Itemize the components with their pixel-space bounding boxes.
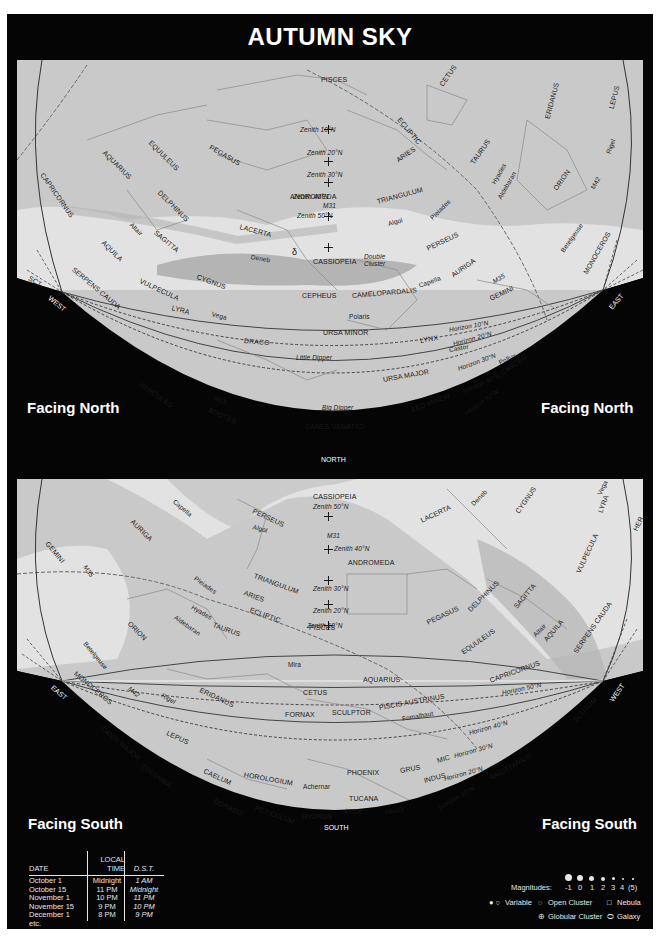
page-title: AUTUMN SKY xyxy=(7,14,653,60)
label-m31: M31 xyxy=(323,202,336,209)
label-big-dipper: Big Dipper xyxy=(322,404,353,411)
magnitude-value: -1 xyxy=(565,883,572,892)
zenith-20-s: Zenith 20°N xyxy=(313,607,349,614)
label-fornax: FORNAX xyxy=(285,711,315,718)
label-achernar: Achernar xyxy=(303,783,330,790)
label-cepheus: CEPHEUS xyxy=(302,292,337,299)
label-aquarius-s: AQUARIUS xyxy=(363,676,400,683)
open-cluster-label: Open Cluster xyxy=(548,898,592,907)
zenith-50-s: Zenith 50°N xyxy=(313,503,349,510)
facing-south-left: Facing South xyxy=(28,815,123,832)
zenith-30-s: Zenith 30°N xyxy=(313,585,349,592)
nebula-label: Nebula xyxy=(617,898,641,907)
globular-cluster-label: Globular Cluster xyxy=(548,912,602,921)
table-header-time: TIME xyxy=(107,864,125,873)
direction-north: NORTH xyxy=(321,456,346,463)
label-cassiopeia: CASSIOPEIA xyxy=(313,258,356,265)
label-tucana: TUCANA xyxy=(349,795,378,802)
galaxy-label: Galaxy xyxy=(617,912,640,921)
star-chart-page: AUTUMN SKY xyxy=(7,14,653,929)
label-m31-s: M31 xyxy=(327,532,340,539)
label-hydrus: HYDRUS xyxy=(302,813,332,820)
facing-north-right: Facing North xyxy=(541,399,634,416)
zenith-10-s: Zenith 10°N xyxy=(307,622,343,629)
zenith-30: Zenith 30°N xyxy=(307,171,343,178)
magnitude-dot-0 xyxy=(577,875,583,881)
label-phoenix: PHOENIX xyxy=(347,769,379,776)
table-divider xyxy=(87,851,88,921)
label-polaris: Polaris xyxy=(349,313,370,320)
magnitude-value: 4 xyxy=(620,883,624,892)
open-cluster-icon: ◌ xyxy=(538,898,542,907)
magnitude-dot-4 xyxy=(622,878,624,880)
variable-label: Variable xyxy=(505,898,532,907)
table-divider xyxy=(124,851,125,921)
zenith-50: Zenith 50°N xyxy=(297,212,333,219)
label-cetus-s: CETUS xyxy=(303,689,327,696)
label-sculptor: SCULPTOR xyxy=(332,709,371,716)
facing-north-left: Facing North xyxy=(27,399,120,416)
table-header-dst: D.S.T. xyxy=(125,851,163,873)
north-facing-map: PISCES CETUS ECLIPTIC ERIDANUS LEPUS CAP… xyxy=(7,60,653,467)
label-47-tuc: 47 tuc xyxy=(344,808,362,815)
label-mira: Mira xyxy=(288,661,301,668)
table-divider xyxy=(29,875,164,876)
table-cell-dst: 9 PM xyxy=(125,911,163,920)
galaxy-icon: ⬭ xyxy=(607,912,614,922)
magnitude-dot-3 xyxy=(612,877,615,880)
zenith-20: Zenith 20°N xyxy=(307,149,343,156)
table-header-date: DATE xyxy=(29,851,89,873)
variable-icon: ● ○ xyxy=(489,898,500,907)
label-pisces: PISCES xyxy=(321,76,347,83)
table-cell-date: etc. xyxy=(29,920,89,929)
facing-south-right: Facing South xyxy=(542,815,637,832)
nebula-icon: □ xyxy=(607,898,612,907)
table-cell-local: 8 PM xyxy=(89,911,125,920)
magnitude-value: 1 xyxy=(590,883,594,892)
label-canes-venatici: CANES VENATICI xyxy=(305,423,364,430)
magnitude-dot-2 xyxy=(601,877,605,881)
magnitude-value: (5) xyxy=(628,883,637,892)
zenith-40-s: Zenith 40°N xyxy=(334,545,370,552)
magnitude-dot-neg1 xyxy=(565,874,572,881)
label-cassiopeia-s: CASSIOPEIA xyxy=(313,493,356,500)
magnitude-value: 2 xyxy=(601,883,605,892)
direction-south: SOUTH xyxy=(324,824,349,831)
label-ursa-minor: URSA MINOR xyxy=(323,329,368,336)
label-little-dipper: Little Dipper xyxy=(296,354,332,361)
globular-cluster-icon: ⊕ xyxy=(538,912,545,921)
zenith-10: Zenith 10°N xyxy=(300,126,336,133)
table-header-local: LOCAL xyxy=(100,855,125,864)
magnitudes-label: Magnitudes: xyxy=(511,883,552,892)
label-delta: δ xyxy=(292,247,297,257)
magnitude-dot-1 xyxy=(589,876,594,881)
label-double-cluster: Double Cluster xyxy=(364,253,390,267)
zenith-40: Zenith 40°N xyxy=(293,193,329,200)
magnitude-value: 0 xyxy=(578,883,582,892)
magnitude-value: 3 xyxy=(611,883,615,892)
observation-time-table: DATE October 1 October 15 November 1 Nov… xyxy=(29,851,164,921)
magnitude-dot-5 xyxy=(632,878,634,880)
label-andromeda-s: ANDROMEDA xyxy=(348,559,394,566)
